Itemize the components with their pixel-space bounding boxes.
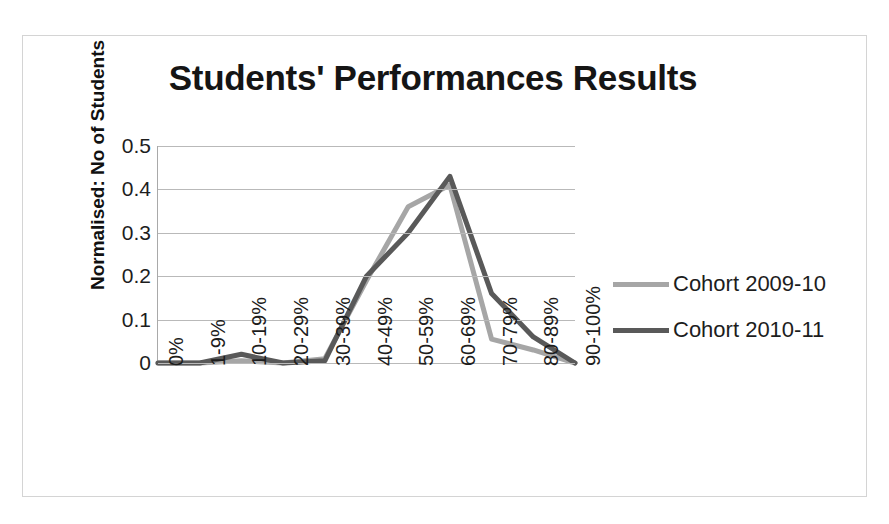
y-axis-tick-labels: 0.50.40.30.20.10 — [101, 146, 151, 363]
legend-label: Cohort 2009-10 — [673, 271, 826, 297]
y-axis-tick: 0.2 — [107, 265, 151, 286]
chart-legend: Cohort 2009-10Cohort 2010-11 — [613, 261, 863, 353]
y-axis-tick: 0.4 — [107, 178, 151, 199]
legend-swatch — [613, 282, 669, 287]
legend-item[interactable]: Cohort 2009-10 — [613, 261, 863, 307]
legend-label: Cohort 2010-11 — [673, 317, 824, 343]
gridline — [158, 276, 575, 277]
y-axis-tick: 0.5 — [107, 135, 151, 156]
y-axis-tick: 0 — [107, 352, 151, 373]
y-axis-tick: 0.3 — [107, 222, 151, 243]
chart-container: Students' Performances Results Normalise… — [22, 35, 867, 497]
legend-item[interactable]: Cohort 2010-11 — [613, 307, 863, 353]
x-axis-tick-labels: 0%1-9%10-19%20-29%30-39%40-49%50-59%60-6… — [157, 366, 574, 486]
legend-swatch — [613, 328, 669, 333]
gridline — [158, 146, 575, 147]
y-axis-tick: 0.1 — [107, 309, 151, 330]
gridline — [158, 189, 575, 190]
plot-wrapper: Normalised: No of Students 0.50.40.30.20… — [23, 36, 868, 498]
gridline — [158, 233, 575, 234]
